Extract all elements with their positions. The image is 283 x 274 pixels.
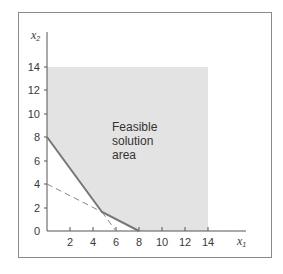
region-label-line1: Feasible [112,120,158,134]
xtick-label: 14 [202,236,214,248]
ytick-label: 0 [34,225,40,237]
xtick-label: 8 [136,236,142,248]
ytick-label: 2 [34,202,40,214]
ytick-label: 12 [28,84,40,96]
xtick-label: 4 [90,236,96,248]
ytick-label: 4 [34,178,40,190]
xtick-label: 12 [179,236,191,248]
xtick-label: 10 [156,236,168,248]
ytick-label: 10 [28,108,40,120]
xtick-label: 6 [113,236,119,248]
feasible-region-chart: 14 12 10 8 6 4 2 0 2 4 6 8 10 12 14 X2 X… [0,0,283,274]
region-label-line2: solution [112,134,153,148]
ytick-label: 8 [34,131,40,143]
region-label-line3: area [112,148,136,162]
ytick-label: 14 [28,61,40,73]
xtick-label: 2 [67,236,73,248]
ytick-label: 6 [34,155,40,167]
